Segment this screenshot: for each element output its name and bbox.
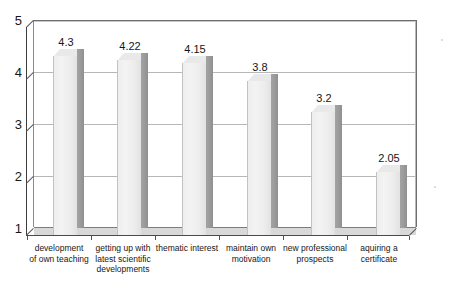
y-axis-tick-4: 4 — [6, 66, 22, 79]
bar-value-label: 4.15 — [178, 44, 212, 55]
bar-front-face — [247, 81, 271, 235]
category-line: getting up with — [91, 243, 155, 254]
x-axis-category-label-4: maintain own motivation — [219, 243, 283, 264]
bar-maintain-own-motivation[interactable] — [247, 74, 278, 235]
bar-front-face — [311, 112, 335, 235]
bar-thematic-interest[interactable] — [182, 56, 213, 235]
baseline-front — [26, 235, 409, 236]
bar-side-face — [77, 49, 84, 228]
category-line: thematic interest — [155, 243, 219, 254]
bar-front-face — [182, 63, 206, 235]
bar-getting-up-with-latest-scientific-developments[interactable] — [117, 53, 148, 235]
x-axis-tick — [91, 236, 92, 240]
bar-side-face — [271, 74, 278, 228]
bar-front-face — [117, 60, 141, 235]
x-axis-category-label-1: development of own teaching — [27, 243, 91, 264]
x-axis-tick — [155, 236, 156, 240]
category-line: maintain own — [219, 243, 283, 254]
category-line: of own teaching — [27, 254, 91, 265]
bar-chart: 5 4 3 2 1 4.3 4.22 — [0, 0, 453, 285]
category-line: latest scientific — [91, 254, 155, 265]
y-axis-tick-5: 5 — [6, 14, 22, 27]
gridline-2 — [34, 176, 416, 177]
category-line: prospects — [283, 254, 347, 265]
plot-frame-top-shadow — [34, 21, 417, 22]
bar-development-of-own-teaching[interactable] — [53, 49, 84, 235]
x-axis-category-label-3: thematic interest — [155, 243, 219, 254]
bar-front-face — [53, 56, 77, 235]
category-line: certificate — [347, 254, 411, 265]
x-axis-tick — [409, 236, 410, 240]
bar-side-face — [400, 165, 407, 228]
x-axis-tick — [347, 236, 348, 240]
bar-side-face — [206, 56, 213, 228]
bar-side-face — [141, 53, 148, 228]
y-axis-tick-1: 1 — [6, 222, 22, 235]
plot-floor-shade — [34, 228, 416, 235]
category-line: developments — [91, 264, 155, 275]
category-line: new professional — [283, 243, 347, 254]
x-axis-tick — [283, 236, 284, 240]
scan-speck — [434, 186, 436, 188]
baseline-back — [34, 227, 416, 228]
x-axis-tick — [219, 236, 220, 240]
gridline-3 — [34, 124, 416, 125]
bar-front-face — [376, 172, 400, 235]
category-line: aquiring a — [347, 243, 411, 254]
bar-side-face — [335, 105, 342, 228]
plot-frame-right — [416, 20, 417, 227]
gridline-4 — [34, 72, 416, 73]
bar-value-label: 4.22 — [113, 41, 147, 52]
x-axis-category-label-2: getting up with latest scientific develo… — [91, 243, 155, 275]
bar-new-professional-prospects[interactable] — [311, 105, 342, 235]
bar-value-label: 3.8 — [243, 62, 277, 73]
x-axis-category-label-6: aquiring a certificate — [347, 243, 411, 264]
bar-aquiring-a-certificate[interactable] — [376, 165, 407, 235]
x-axis-category-label-5: new professional prospects — [283, 243, 347, 264]
bar-value-label: 3.2 — [307, 93, 341, 104]
y-axis-tick-2: 2 — [6, 170, 22, 183]
scan-speck — [441, 39, 443, 41]
category-line: motivation — [219, 254, 283, 265]
bar-value-label: 2.05 — [372, 153, 406, 164]
y-axis-tick-3: 3 — [6, 118, 22, 131]
bar-value-label: 4.3 — [49, 37, 83, 48]
category-line: development — [27, 243, 91, 254]
x-axis-tick — [27, 236, 28, 240]
